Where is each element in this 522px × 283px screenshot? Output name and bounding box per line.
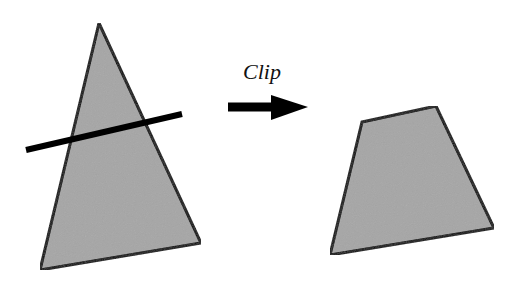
clipped-polygon <box>330 106 494 255</box>
clip-diagram: Clip <box>0 0 522 283</box>
right-arrow-icon <box>228 95 308 120</box>
arrow-head <box>271 95 308 120</box>
clip-label: Clip <box>243 59 281 84</box>
input-triangle <box>40 23 201 270</box>
